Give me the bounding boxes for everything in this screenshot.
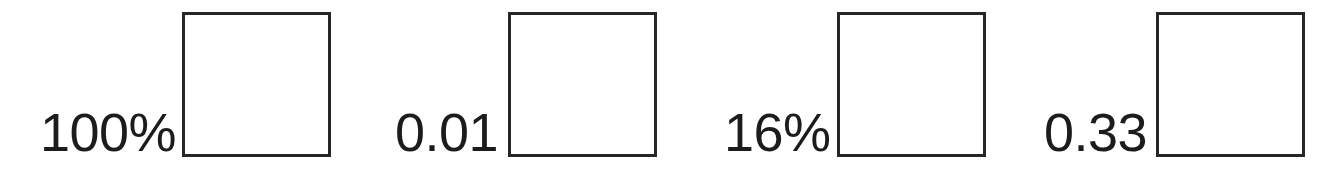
legend-strip: 100%0.0116%0.33 <box>0 0 1335 182</box>
scale-value-label: 0.33 <box>1044 105 1147 159</box>
scale-value-label: 16% <box>724 105 831 159</box>
square-swatch <box>182 12 331 157</box>
scale-value-label: 100% <box>40 105 176 159</box>
square-swatch <box>837 12 986 157</box>
legend-pair: 0.33 <box>1044 12 1305 157</box>
square-swatch <box>508 12 657 157</box>
legend-pair: 16% <box>724 12 986 157</box>
legend-pair: 100% <box>40 12 331 157</box>
square-swatch <box>1156 12 1305 157</box>
scale-value-label: 0.01 <box>395 105 498 159</box>
legend-pair: 0.01 <box>395 12 657 157</box>
